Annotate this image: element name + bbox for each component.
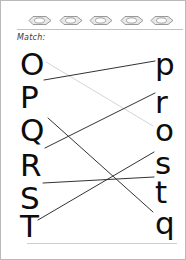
boat-icon-3	[88, 15, 114, 26]
right-letter-p[interactable]: p	[155, 49, 175, 80]
boat-icon-1	[27, 15, 53, 26]
boat-icon-5	[149, 15, 175, 26]
header-icon-strip	[27, 14, 175, 27]
matching-worksheet: Match: OPQRSTprostq	[0, 0, 186, 260]
connector-T-to-s[interactable]	[38, 152, 154, 220]
connector-Q-to-q[interactable]	[48, 118, 153, 212]
instruction-label: Match:	[17, 33, 45, 42]
header-divider	[17, 29, 183, 30]
left-letter-P[interactable]: P	[20, 82, 39, 113]
connector-R-to-r[interactable]	[45, 93, 155, 148]
boat-icon-4	[119, 15, 145, 26]
connector-P-to-p[interactable]	[44, 61, 155, 80]
boat-icon-2	[58, 15, 84, 26]
right-letter-o[interactable]: o	[155, 115, 174, 146]
left-letter-Q[interactable]: Q	[20, 115, 44, 146]
left-letter-R[interactable]: R	[20, 150, 42, 181]
footer-divider	[27, 243, 177, 244]
connector-O-to-o[interactable]	[46, 62, 153, 126]
right-letter-t[interactable]: t	[155, 177, 167, 208]
left-letter-T[interactable]: T	[20, 211, 39, 242]
left-letter-O[interactable]: O	[20, 49, 44, 80]
worksheet-page: Match: OPQRSTprostq	[7, 5, 181, 257]
right-letter-q[interactable]: q	[155, 208, 175, 239]
connector-S-to-t[interactable]	[43, 177, 154, 183]
